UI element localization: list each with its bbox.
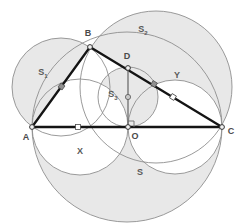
vertex-B-dot <box>88 45 93 50</box>
vertex-O-dot <box>126 125 131 130</box>
vertex-A-dot <box>30 125 35 130</box>
point-label-D: D <box>124 51 131 61</box>
vertex-C-dot <box>220 125 225 130</box>
region-label-Y: Y <box>174 70 180 80</box>
point-label-C: C <box>228 126 235 136</box>
center-S3-marker <box>125 94 130 99</box>
geometry-figure: A B C D O S1 S2 S3 S X Y <box>0 0 240 224</box>
region-S3-shade <box>0 0 240 224</box>
vertex-D-dot <box>126 66 131 71</box>
midpoint-AO-marker <box>76 125 81 130</box>
region-label-S: S <box>137 167 143 177</box>
shaded-regions <box>0 0 240 224</box>
point-label-A: A <box>23 132 30 142</box>
point-label-B: B <box>85 28 92 38</box>
region-label-X: X <box>77 146 83 156</box>
point-label-O: O <box>131 131 138 141</box>
